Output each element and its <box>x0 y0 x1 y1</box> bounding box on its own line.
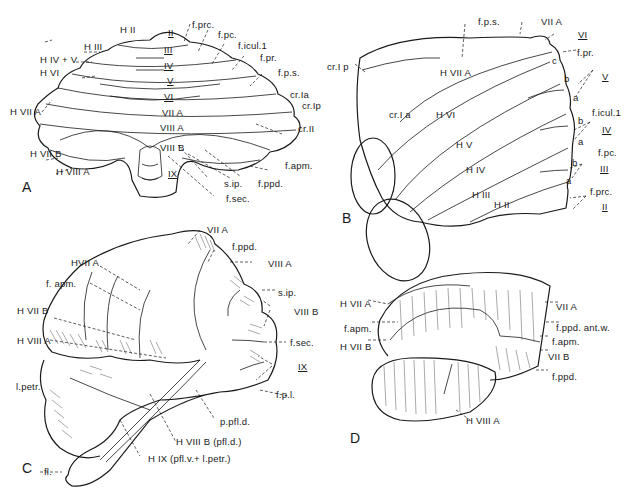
label-b-h-vi: H VI <box>436 110 455 120</box>
label-a-h-vi: H VI <box>40 68 59 78</box>
label-d-f-ppd-ant-w: f.ppd. ant.w. <box>556 323 610 333</box>
label-a-h-vii-a: H VII A <box>10 107 41 117</box>
label-d-f-apm-left: f.apm. <box>344 324 372 334</box>
label-b-h-ii: H II <box>494 200 510 210</box>
label-b-vii-a: VII A <box>541 17 562 27</box>
label-b-cr-ia: cr.I a <box>389 110 411 120</box>
label-a-h-ii: H II <box>120 25 136 35</box>
panel-letter-b: B <box>342 210 351 226</box>
label-a-vi: VI <box>164 92 173 102</box>
label-a-iii: III <box>164 45 173 55</box>
panel-c-drawing <box>40 230 288 486</box>
label-c-ix: IX <box>298 362 307 372</box>
label-a-cr-ia: cr.Ia <box>290 90 309 100</box>
label-c-h-ix: H IX (pfl.v.+ l.petr.) <box>148 454 231 464</box>
label-b-f-pc: f.pc. <box>598 148 617 158</box>
label-c-f-pl: f.p.l. <box>276 390 295 400</box>
label-d-vii-a: VII A <box>556 302 577 312</box>
label-b-a2: a <box>578 137 583 147</box>
label-a-f-pr: f.pr. <box>260 53 277 63</box>
label-d-h-vii-b: H VII B <box>340 342 372 352</box>
figure-artwork <box>0 0 629 489</box>
label-b-f-pr: f.pr. <box>577 48 594 58</box>
label-a-h-iv-v: H IV + V <box>40 55 77 65</box>
label-b-f-prc: f.prc. <box>590 187 612 197</box>
label-b-f-icul: f.icul.1 <box>592 108 621 118</box>
label-c-viii-a: VIII A <box>268 259 292 269</box>
label-a-ii: II <box>168 28 174 38</box>
label-a-f-icul: f.icul.1 <box>238 41 267 51</box>
label-b-b1: b <box>564 74 569 84</box>
label-c-h-viii-b: H VIII B (pfl.d.) <box>176 437 242 447</box>
label-d-h-viii-a: H VIII A <box>466 416 500 426</box>
label-b-vi: VI <box>578 30 587 40</box>
label-c-h-vii-a: HVII A <box>71 258 99 268</box>
label-d-vii-b: VII B <box>548 352 570 362</box>
label-b-f-ps: f.p.s. <box>478 17 500 27</box>
label-a-s-ip: s.ip. <box>224 179 242 189</box>
panel-letter-c: C <box>22 460 32 476</box>
label-a-cr-ip: cr.Ip <box>302 101 321 111</box>
label-a-h-vii-b: H VII B <box>30 149 62 159</box>
label-a-h-viii-a: H VIII A <box>56 167 90 177</box>
panel-letter-d: D <box>350 430 360 446</box>
label-a-f-ps: f.p.s. <box>278 68 300 78</box>
label-a-f-prc: f.prc. <box>192 20 214 30</box>
label-b-b3: b <box>572 158 577 168</box>
label-a-ix: IX <box>168 169 177 179</box>
label-b-b2: b <box>578 116 583 126</box>
label-c-p-pfl-d: p.pfl.d. <box>220 417 250 427</box>
label-b-iv: IV <box>602 125 611 135</box>
label-b-h-iii: H III <box>472 190 490 200</box>
label-a-v: V <box>167 76 174 86</box>
panel-letter-a: A <box>22 179 31 195</box>
label-b-ii: II <box>602 202 608 212</box>
label-b-c: c <box>552 56 557 66</box>
label-a-viii-a: VIII A <box>160 123 184 133</box>
label-b-a1: a <box>573 93 578 103</box>
label-c-l-petr: l.petr. <box>16 382 41 392</box>
label-c-fl: fl. <box>44 467 52 477</box>
label-c-h-viii-a: H VIII A <box>17 336 51 346</box>
label-c-s-ip: s.ip. <box>278 288 296 298</box>
label-a-iv: IV <box>164 61 173 71</box>
label-a-f-apm: f.apm. <box>285 161 313 171</box>
label-b-cr-ip: cr.I p <box>327 62 349 72</box>
label-a-f-sec: f.sec. <box>226 194 250 204</box>
label-a-f-ppd: f.ppd. <box>258 179 283 189</box>
label-b-h-v: H V <box>456 140 472 150</box>
label-b-iii: III <box>600 164 609 174</box>
label-b-a3: a <box>566 176 571 186</box>
label-c-f-apm: f. apm. <box>46 279 76 289</box>
label-b-h-vii-a: H VII A <box>440 68 471 78</box>
label-a-vii-a: VII A <box>162 108 183 118</box>
label-a-h-iii: H III <box>84 42 102 52</box>
panel-d-drawing <box>368 273 560 422</box>
label-b-v: V <box>602 72 609 82</box>
label-c-viii-b: VIII B <box>294 307 318 317</box>
label-c-vii-a: VII A <box>207 225 228 235</box>
label-c-f-ppd: f.ppd. <box>232 242 257 252</box>
label-d-h-vii-a: H VII A <box>340 299 371 309</box>
label-a-viii-b: VIII B <box>160 143 184 153</box>
label-d-f-apm-right: f.apm. <box>552 337 580 347</box>
label-c-h-vii-b: H VII B <box>17 306 49 316</box>
label-a-cr-ii: cr.II <box>298 124 314 134</box>
label-a-f-pc: f.pc. <box>218 30 237 40</box>
label-b-h-iv: H IV <box>466 165 485 175</box>
label-c-f-sec: f.sec. <box>290 338 314 348</box>
label-d-f-ppd: f.ppd. <box>552 372 577 382</box>
